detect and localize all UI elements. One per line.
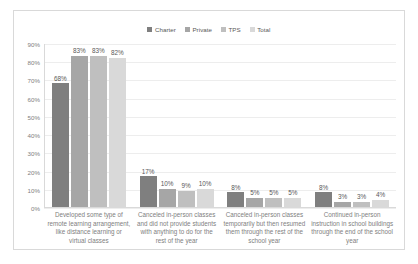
- bar[interactable]: [197, 189, 214, 207]
- y-axis-tick-label: 40%: [28, 132, 40, 139]
- bar-value-label: 17%: [142, 168, 155, 175]
- bar-column: 8%: [315, 44, 332, 207]
- bar-value-label: 83%: [92, 47, 105, 54]
- x-axis-line: [44, 207, 396, 208]
- bar-value-label: 83%: [73, 47, 86, 54]
- legend-swatch-private: [185, 27, 190, 32]
- legend-swatch-charter: [147, 27, 152, 32]
- bar-column: 3%: [334, 44, 351, 207]
- bar[interactable]: [372, 200, 389, 207]
- bar-group: 17%10%9%10%: [133, 44, 221, 207]
- legend-label-total: Total: [257, 26, 270, 33]
- bar-value-label: 10%: [161, 180, 174, 187]
- bar[interactable]: [334, 202, 351, 207]
- legend-label-charter: Charter: [155, 26, 176, 33]
- bar-value-label: 4%: [376, 191, 385, 198]
- y-axis-tick-label: 30%: [28, 150, 40, 157]
- bar[interactable]: [140, 176, 157, 207]
- bar[interactable]: [159, 189, 176, 207]
- bar-column: 5%: [265, 44, 282, 207]
- bar[interactable]: [52, 83, 69, 207]
- x-axis-category-label: Canceled in-person classes and did not p…: [133, 211, 221, 247]
- bar-column: 5%: [284, 44, 301, 207]
- bar-column: 82%: [109, 44, 126, 207]
- bar-column: 68%: [52, 44, 69, 207]
- y-axis-tick-label: 70%: [28, 77, 40, 84]
- x-axis-category-label: Developed some type of remote learning a…: [45, 211, 133, 247]
- y-axis-tick-label: 80%: [28, 59, 40, 66]
- plot-area: 68%83%83%82%17%10%9%10%8%5%5%5%8%3%3%4%: [44, 44, 396, 208]
- bar-column: 8%: [227, 44, 244, 207]
- bar-group: 8%5%5%5%: [221, 44, 309, 207]
- chart-container: Charter Private TPS Total 0%10%20%30%40%…: [13, 10, 405, 250]
- legend-label-private: Private: [192, 26, 212, 33]
- gridline: [44, 208, 396, 209]
- bar[interactable]: [178, 191, 195, 207]
- bar-group: 68%83%83%82%: [45, 44, 133, 207]
- legend-label-tps: TPS: [229, 26, 241, 33]
- legend-item-charter[interactable]: Charter: [147, 26, 175, 33]
- bar-value-label: 3%: [338, 193, 347, 200]
- y-axis-tick-label: 90%: [28, 41, 40, 48]
- chart-legend: Charter Private TPS Total: [14, 26, 404, 33]
- bar-value-label: 5%: [269, 189, 278, 196]
- bar[interactable]: [109, 58, 126, 207]
- bar-column: 3%: [353, 44, 370, 207]
- y-axis-tick-label: 60%: [28, 95, 40, 102]
- x-axis-category-label: Canceled in-person classes temporarily b…: [221, 211, 309, 247]
- bar-value-label: 68%: [54, 75, 67, 82]
- x-axis-category-label: Continued in-person instruction in schoo…: [308, 211, 396, 247]
- bar-column: 5%: [246, 44, 263, 207]
- bar-column: 17%: [140, 44, 157, 207]
- bar-column: 4%: [372, 44, 389, 207]
- legend-item-private[interactable]: Private: [185, 26, 212, 33]
- bar[interactable]: [284, 198, 301, 207]
- bar-value-label: 82%: [111, 49, 124, 56]
- bar-column: 10%: [197, 44, 214, 207]
- bar-column: 9%: [178, 44, 195, 207]
- y-axis-tick-label: 20%: [28, 168, 40, 175]
- legend-swatch-total: [250, 27, 255, 32]
- y-axis-tick-label: 50%: [28, 113, 40, 120]
- y-axis-tick-label: 10%: [28, 186, 40, 193]
- bar[interactable]: [227, 192, 244, 207]
- bar-value-label: 8%: [319, 184, 328, 191]
- x-axis-category-labels: Developed some type of remote learning a…: [45, 211, 396, 247]
- bar-value-label: 5%: [250, 189, 259, 196]
- y-axis-tick-label: 0%: [31, 205, 40, 212]
- bar-value-label: 3%: [357, 193, 366, 200]
- bar-groups: 68%83%83%82%17%10%9%10%8%5%5%5%8%3%3%4%: [45, 44, 396, 207]
- bar[interactable]: [90, 56, 107, 207]
- bar-column: 83%: [71, 44, 88, 207]
- bar-column: 83%: [90, 44, 107, 207]
- bar[interactable]: [265, 198, 282, 207]
- bar-value-label: 5%: [288, 189, 297, 196]
- bar-value-label: 8%: [231, 184, 240, 191]
- bar[interactable]: [246, 198, 263, 207]
- legend-swatch-tps: [221, 27, 226, 32]
- legend-item-total[interactable]: Total: [250, 26, 271, 33]
- bar[interactable]: [71, 56, 88, 207]
- bar[interactable]: [315, 192, 332, 207]
- bar-column: 10%: [159, 44, 176, 207]
- y-axis-tick-labels: 0%10%20%30%40%50%60%70%80%90%: [14, 44, 42, 208]
- legend-item-tps[interactable]: TPS: [221, 26, 241, 33]
- bar-value-label: 9%: [182, 182, 191, 189]
- bar-group: 8%3%3%4%: [308, 44, 396, 207]
- bar-value-label: 10%: [199, 180, 212, 187]
- bar[interactable]: [353, 202, 370, 207]
